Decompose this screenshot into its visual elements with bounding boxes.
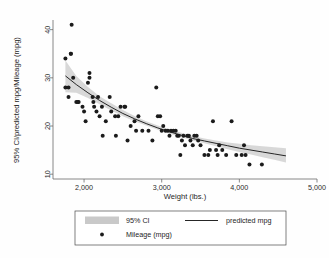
data-point bbox=[87, 76, 91, 80]
data-point bbox=[202, 153, 206, 157]
data-point bbox=[67, 95, 71, 99]
data-point bbox=[220, 148, 224, 152]
legend-label-ci: 95% CI bbox=[126, 216, 150, 225]
data-point bbox=[187, 134, 191, 138]
data-point bbox=[109, 110, 113, 114]
data-point bbox=[150, 138, 154, 142]
y-tick-label: 30 bbox=[43, 74, 52, 82]
data-point bbox=[174, 129, 178, 133]
data-point bbox=[63, 57, 67, 61]
legend-swatch-mileage bbox=[100, 233, 104, 237]
data-point bbox=[92, 105, 96, 109]
data-point bbox=[134, 129, 138, 133]
data-point bbox=[230, 119, 234, 123]
data-point bbox=[70, 23, 74, 27]
data-point bbox=[71, 76, 75, 80]
data-point bbox=[91, 95, 95, 99]
data-point bbox=[123, 105, 127, 109]
data-point bbox=[77, 100, 81, 104]
data-point bbox=[208, 148, 212, 152]
data-point bbox=[214, 148, 218, 152]
legend-label-predicted: predicted mpg bbox=[226, 216, 272, 225]
data-point bbox=[133, 119, 137, 123]
data-point bbox=[196, 138, 200, 142]
data-point bbox=[119, 105, 123, 109]
data-point bbox=[114, 134, 118, 138]
data-point bbox=[247, 163, 251, 167]
x-tick-label: 3,000 bbox=[153, 183, 171, 192]
data-point bbox=[86, 81, 90, 85]
data-point bbox=[108, 95, 112, 99]
data-point bbox=[177, 134, 181, 138]
data-point bbox=[195, 134, 199, 138]
x-axis-title: Weight (lbs.) bbox=[164, 192, 207, 201]
data-point bbox=[260, 163, 264, 167]
chart-legend: 95% CI predicted mpg Mileage (mpg) bbox=[75, 211, 286, 245]
data-point bbox=[234, 153, 238, 157]
data-point bbox=[126, 138, 130, 142]
data-point bbox=[181, 134, 185, 138]
data-point bbox=[101, 134, 105, 138]
data-point bbox=[188, 138, 192, 142]
data-point bbox=[154, 85, 158, 89]
data-point bbox=[183, 143, 187, 147]
data-point bbox=[81, 105, 85, 109]
data-point bbox=[147, 129, 151, 133]
x-tick-label: 5,000 bbox=[308, 183, 326, 192]
legend-label-mileage: Mileage (mpg) bbox=[126, 230, 172, 239]
data-point bbox=[94, 110, 98, 114]
data-point bbox=[161, 124, 165, 128]
data-point bbox=[116, 114, 120, 118]
data-point bbox=[84, 119, 88, 123]
data-point bbox=[242, 143, 246, 147]
data-point bbox=[199, 143, 203, 147]
data-point bbox=[82, 110, 86, 114]
data-point bbox=[211, 119, 215, 123]
data-point bbox=[140, 129, 144, 133]
data-point bbox=[104, 119, 108, 123]
data-point bbox=[244, 153, 248, 157]
data-point bbox=[191, 143, 195, 147]
data-point bbox=[240, 153, 244, 157]
data-point bbox=[129, 124, 133, 128]
x-tick-label: 4,000 bbox=[230, 183, 248, 192]
data-point bbox=[98, 114, 102, 118]
data-point bbox=[87, 71, 91, 75]
data-point bbox=[178, 153, 182, 157]
data-point bbox=[91, 100, 95, 104]
data-point bbox=[216, 153, 220, 157]
legend-swatch-ci bbox=[85, 217, 119, 225]
data-point bbox=[180, 138, 184, 142]
y-axis-title: 95% CI/predicted mpg/Mileage (mpg) bbox=[12, 37, 21, 163]
data-point bbox=[67, 85, 71, 89]
y-tick-label: 10 bbox=[43, 170, 52, 178]
data-point bbox=[160, 129, 164, 133]
data-point bbox=[224, 153, 228, 157]
scatter-plot-svg: 10203040 2,0003,0004,0005,000 95% CI/pre… bbox=[0, 0, 329, 258]
data-point bbox=[158, 114, 162, 118]
data-point bbox=[100, 105, 104, 109]
data-point bbox=[167, 134, 171, 138]
data-point bbox=[96, 95, 100, 99]
data-point bbox=[217, 143, 221, 147]
data-point bbox=[69, 52, 73, 56]
chart-figure: 10203040 2,0003,0004,0005,000 95% CI/pre… bbox=[0, 0, 329, 258]
y-tick-label: 20 bbox=[43, 122, 52, 130]
data-point bbox=[136, 114, 140, 118]
x-tick-label: 2,000 bbox=[75, 183, 93, 192]
data-point bbox=[206, 153, 210, 157]
y-tick-label: 40 bbox=[43, 26, 52, 34]
